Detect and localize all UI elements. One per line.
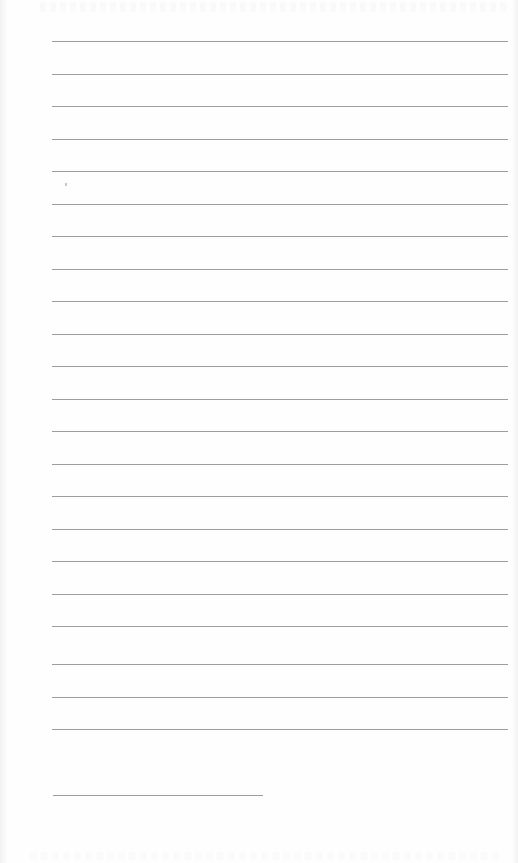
ruled-line [52,204,508,205]
ruled-line [52,431,508,432]
ruled-line [52,41,508,42]
ruled-line [52,464,508,465]
ruled-line [52,399,508,400]
bleed-through-text-bottom [30,852,500,860]
ruled-line [52,594,508,595]
ruled-line [52,171,508,172]
page-edge-shadow-left [0,0,8,863]
ruled-line [52,729,508,730]
ruled-line [52,697,508,698]
short-signature-line [53,795,263,796]
ruled-line [52,74,508,75]
ruled-line [52,561,508,562]
ruled-line [52,334,508,335]
ruled-line [52,106,508,107]
ruled-line [52,366,508,367]
ruled-line [52,139,508,140]
ruled-line [52,269,508,270]
ruled-line [52,529,508,530]
stray-mark [65,183,67,186]
ruled-line [52,236,508,237]
ruled-line [52,496,508,497]
ruled-line [52,626,508,627]
ruled-line [52,664,508,665]
page-edge-shadow-right [512,0,518,863]
bleed-through-text-top [40,2,510,12]
ruled-line [52,301,508,302]
lined-page [0,0,518,863]
